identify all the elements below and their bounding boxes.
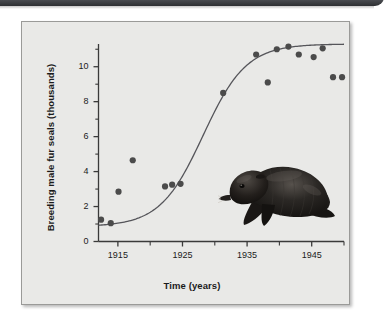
fur-seal-illustration <box>218 150 338 234</box>
header-strip-shadow <box>0 6 374 9</box>
data-point <box>339 74 345 80</box>
data-point <box>130 157 136 163</box>
x-tick-label-1915: 1915 <box>101 250 135 260</box>
y-tick-label-10: 10 <box>67 61 89 71</box>
x-tick-label-1945: 1945 <box>295 250 329 260</box>
data-point <box>169 182 175 188</box>
data-point <box>320 45 326 51</box>
data-point <box>311 54 317 60</box>
x-axis-ticks <box>118 242 344 247</box>
y-axis-title: Breeding male fur seals (thousands) <box>45 53 56 243</box>
y-tick-label-4: 4 <box>67 166 89 176</box>
data-point <box>98 217 104 223</box>
data-point <box>115 189 121 195</box>
data-point <box>285 44 291 50</box>
x-tick-label-1935: 1935 <box>230 250 264 260</box>
data-point <box>253 51 259 57</box>
y-axis-ticks <box>94 49 99 241</box>
data-point <box>220 90 226 96</box>
scatter-plot: Breeding male fur seals (thousands) Time… <box>22 22 351 306</box>
data-point <box>162 183 168 189</box>
data-point <box>108 220 114 226</box>
data-point <box>330 74 336 80</box>
data-point <box>177 181 183 187</box>
x-tick-label-1925: 1925 <box>165 250 199 260</box>
x-axis-title: Time (years) <box>82 280 302 291</box>
data-point <box>265 79 271 85</box>
y-tick-label-6: 6 <box>67 131 89 141</box>
y-tick-label-2: 2 <box>67 201 89 211</box>
figure-panel: Breeding male fur seals (thousands) Time… <box>21 21 350 305</box>
data-point <box>274 46 280 52</box>
y-tick-label-0: 0 <box>67 236 89 246</box>
y-tick-label-8: 8 <box>67 96 89 106</box>
data-point <box>296 51 302 57</box>
